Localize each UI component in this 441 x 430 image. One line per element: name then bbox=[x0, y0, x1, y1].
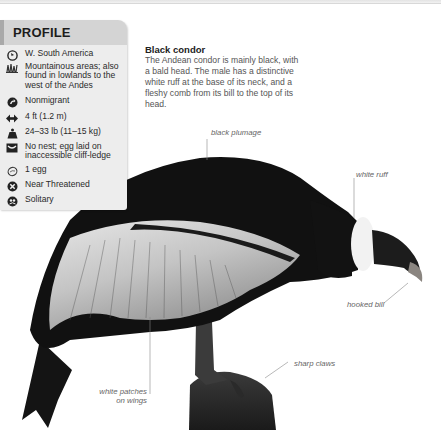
profile-item-social: Solitary bbox=[0, 195, 127, 207]
profile-item-nest: No nest; egg laid on inaccessible cliff-… bbox=[0, 142, 127, 161]
egg-icon bbox=[5, 165, 19, 177]
caption-title: Black condor bbox=[145, 44, 305, 55]
label-sharp-claws: sharp claws bbox=[294, 359, 335, 368]
label-black-plumage: black plumage bbox=[211, 128, 261, 137]
social-icon bbox=[5, 195, 19, 207]
label-hooked-bill: hooked bill bbox=[347, 300, 384, 309]
habitat-grass-icon bbox=[5, 62, 19, 74]
wingspan-arrows-icon bbox=[5, 112, 19, 124]
profile-item-clutch: 1 egg bbox=[0, 165, 127, 177]
label-white-ruff: white ruff bbox=[356, 170, 388, 179]
label-white-patches: white patches on wings bbox=[99, 387, 147, 405]
migration-arrow-icon bbox=[5, 96, 19, 108]
profile-item-status: Near Threatened bbox=[0, 180, 127, 192]
profile-item-habitat: Mountainous areas; also found in lowland… bbox=[0, 62, 127, 90]
conservation-status-icon bbox=[5, 180, 19, 192]
profile-item-wingspan: 4 ft (1.2 m) bbox=[0, 112, 127, 124]
weight-icon bbox=[5, 127, 19, 139]
nest-icon bbox=[5, 142, 19, 154]
globe-icon bbox=[5, 49, 19, 61]
caption-body: The Andean condor is mainly black, with … bbox=[145, 55, 305, 110]
species-caption: Black condor The Andean condor is mainly… bbox=[145, 44, 305, 110]
profile-item-migration: Nonmigrant bbox=[0, 96, 127, 108]
profile-item-weight: 24–33 lb (11–15 kg) bbox=[0, 127, 127, 139]
profile-title: PROFILE bbox=[13, 25, 71, 40]
profile-panel: PROFILE W. South America Mountainous are… bbox=[0, 20, 127, 210]
profile-header: PROFILE bbox=[0, 20, 127, 45]
profile-item-range: W. South America bbox=[0, 49, 127, 61]
